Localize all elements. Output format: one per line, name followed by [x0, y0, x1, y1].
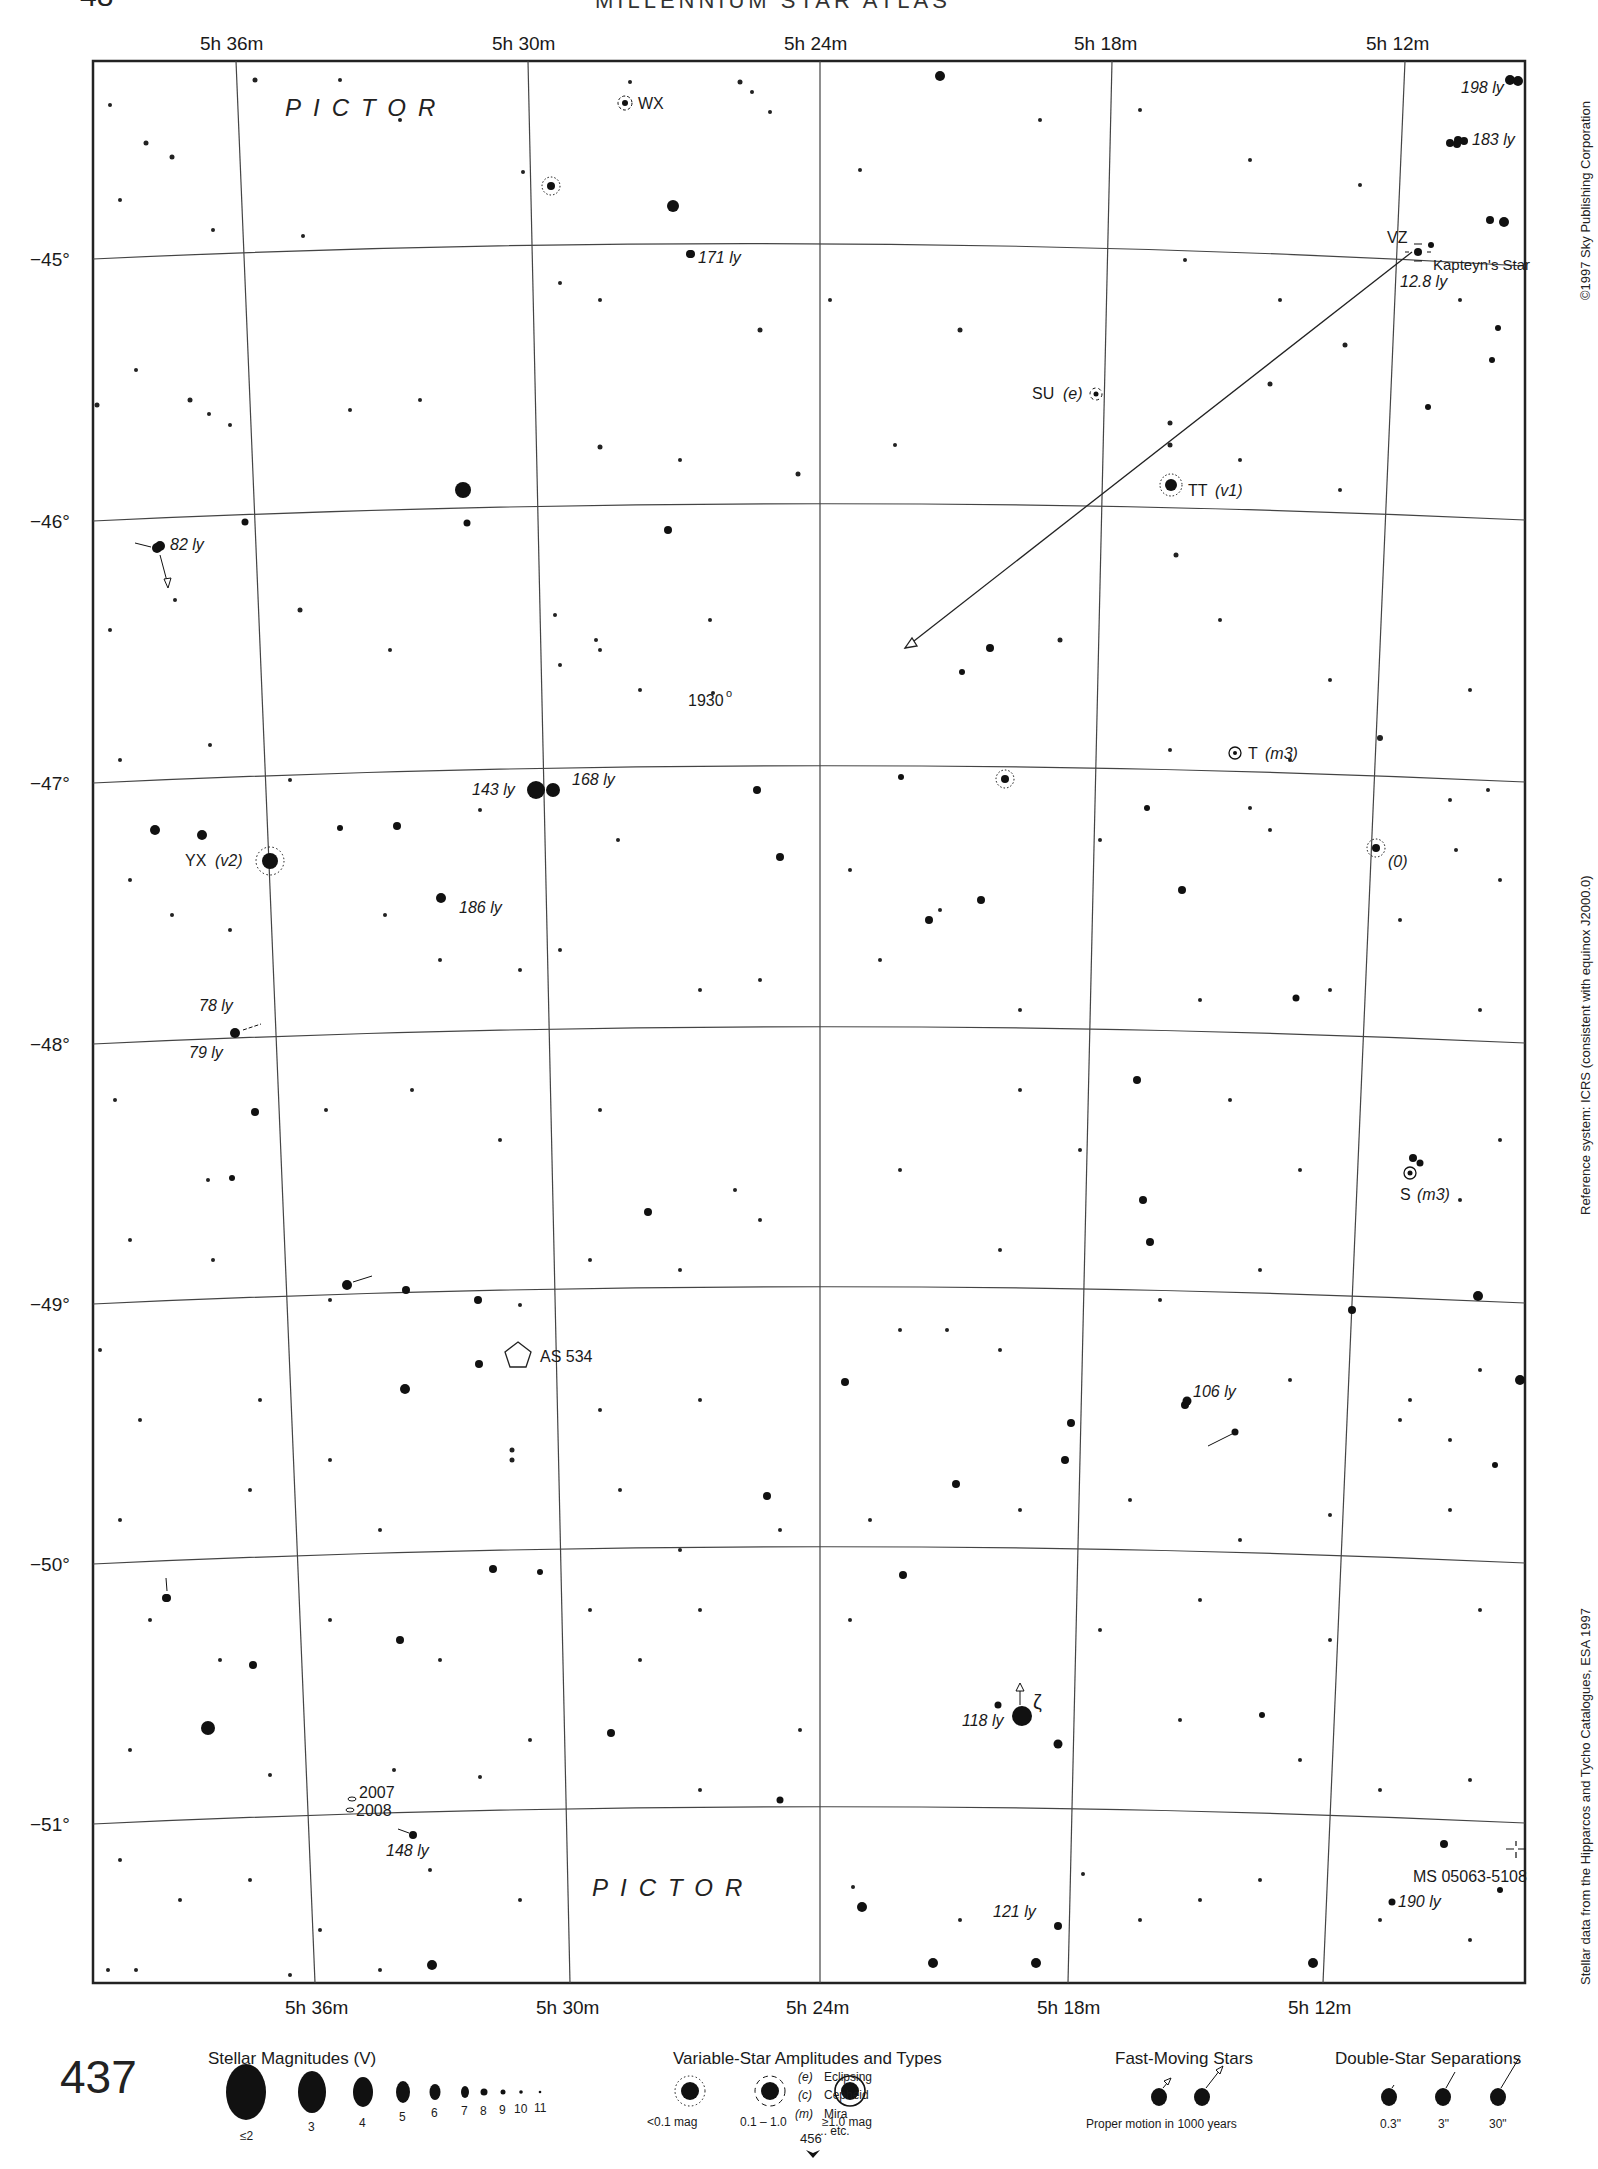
svg-text:79 ly: 79 ly — [189, 1044, 224, 1061]
dec-label: −50° — [30, 1554, 70, 1575]
svg-text:Mira: Mira — [824, 2107, 848, 2121]
svg-text:VZ: VZ — [1387, 229, 1408, 246]
legend-variables: Variable-Star Amplitudes and Types <0.1 … — [647, 2049, 942, 2158]
svg-text:106 ly: 106 ly — [1193, 1383, 1237, 1400]
mag-label: 7 — [461, 2104, 468, 2118]
svg-text:SU: SU — [1032, 385, 1054, 402]
object-wx: WX — [618, 95, 664, 112]
chart-number: 437 — [60, 2051, 137, 2103]
variable-su: SU (e) — [1032, 385, 1102, 402]
legend-doubles: Double-Star Separations 0.3" 3" 30" — [1335, 2049, 1521, 2131]
svg-text:S: S — [1400, 1186, 1411, 1203]
svg-text:118 ly: 118 ly — [962, 1712, 1005, 1729]
nebula-as534: AS 534 — [505, 1342, 593, 1367]
ra-label: 5h 36m — [200, 33, 263, 54]
mira-t: T (m3) — [1229, 745, 1298, 762]
ra-label: 5h 30m — [536, 1997, 599, 2018]
star-106ly: 106 ly — [1183, 1383, 1237, 1406]
star-82ly: 82 ly — [135, 536, 205, 588]
dec-label: −47° — [30, 773, 70, 794]
mag-label: 8 — [480, 2104, 487, 2118]
ra-label: 5h 18m — [1037, 1997, 1100, 2018]
svg-text:30": 30" — [1489, 2117, 1507, 2131]
svg-text:MS 05063-5108: MS 05063-5108 — [1413, 1868, 1527, 1885]
mag-label: 9 — [499, 2103, 506, 2117]
mag-label: 10 — [514, 2102, 528, 2116]
dec-grid — [93, 244, 1525, 1824]
ra-grid — [236, 61, 1405, 1983]
legend-fast-moving: Fast-Moving Stars Proper motion in 1000 … — [1086, 2049, 1253, 2131]
svg-text:Kapteyn's Star: Kapteyn's Star — [1433, 256, 1530, 273]
reference-note: Reference system: ICRS (consistent with … — [1578, 875, 1593, 1215]
svg-text:(m3): (m3) — [1265, 745, 1298, 762]
svg-text:WX: WX — [638, 95, 664, 112]
epoch-1930: 1930 o — [688, 687, 732, 709]
svg-text:12.8 ly: 12.8 ly — [1400, 273, 1448, 290]
svg-text:(e): (e) — [1063, 385, 1083, 402]
dec-label: −46° — [30, 511, 70, 532]
svg-text:<0.1 mag: <0.1 mag — [647, 2115, 697, 2129]
mag-label: 3 — [308, 2120, 315, 2134]
object-ms05063: MS 05063-5108 — [1413, 1841, 1527, 1885]
star-121ly: 121 ly — [993, 1903, 1062, 1930]
variable-zero: (0) — [1367, 839, 1408, 870]
star-78-79ly: 78 ly 79 ly — [189, 997, 261, 1061]
dec-label: −48° — [30, 1034, 70, 1055]
svg-text:... etc.: ... etc. — [817, 2124, 850, 2138]
svg-text:ζ: ζ — [1033, 1691, 1042, 1713]
ra-label: 5h 12m — [1288, 1997, 1351, 2018]
svg-text:(m): (m) — [795, 2107, 813, 2121]
ra-axis-top: 5h 36m 5h 30m 5h 24m 5h 18m 5h 12m — [200, 33, 1429, 54]
mira-s: S (m3) — [1400, 1160, 1450, 1204]
mag-label: 11 — [534, 2101, 547, 2115]
svg-text:(0): (0) — [1388, 853, 1408, 870]
proper-motion-vector — [905, 252, 1412, 648]
svg-text:(v2): (v2) — [215, 852, 243, 869]
svg-text:121 ly: 121 ly — [993, 1903, 1037, 1920]
svg-text:Proper motion in 1000 years: Proper motion in 1000 years — [1086, 2117, 1237, 2131]
star-183ly: 183 ly — [1453, 131, 1516, 148]
dec-label: −45° — [30, 249, 70, 270]
dec-label: −49° — [30, 1294, 70, 1315]
svg-text:148 ly: 148 ly — [386, 1842, 430, 1859]
svg-text:171 ly: 171 ly — [698, 249, 742, 266]
ra-label: 5h 18m — [1074, 33, 1137, 54]
mag-label: ≤2 — [240, 2129, 254, 2143]
svg-text:Double-Star Separations: Double-Star Separations — [1335, 2049, 1521, 2068]
svg-text:0.1 – 1.0: 0.1 – 1.0 — [740, 2115, 787, 2129]
ra-label: 5h 24m — [786, 1997, 849, 2018]
svg-text:168 ly: 168 ly — [572, 771, 616, 788]
svg-text:143 ly: 143 ly — [472, 781, 516, 798]
svg-text:0.3": 0.3" — [1380, 2117, 1401, 2131]
star-chart: 48 MILLENNIUM STAR ATLAS 5h 36m 5h 30m 5… — [0, 0, 1598, 2169]
svg-text:186 ly: 186 ly — [459, 899, 503, 916]
svg-text:(c): (c) — [798, 2088, 812, 2102]
ra-label: 5h 12m — [1366, 33, 1429, 54]
star-field — [150, 71, 1525, 1970]
svg-text:190 ly: 190 ly — [1398, 1893, 1442, 1910]
star-190ly: 190 ly — [1389, 1893, 1442, 1910]
arrow-down-icon — [806, 2150, 820, 2158]
dec-axis: −45° −46° −47° −48° −49° −50° −51° — [30, 249, 70, 1835]
copyright-note: ©1997 Sky Publishing Corporation — [1578, 101, 1593, 300]
svg-text:2008: 2008 — [356, 1802, 392, 1819]
svg-text:2007: 2007 — [359, 1784, 395, 1801]
svg-text:Eclipsing: Eclipsing — [824, 2070, 872, 2084]
svg-text:(e): (e) — [798, 2070, 813, 2084]
svg-text:(m3): (m3) — [1417, 1186, 1450, 1203]
ra-label: 5h 36m — [285, 1997, 348, 2018]
page-number-top: 48 — [80, 0, 113, 12]
atlas-title: MILLENNIUM STAR ATLAS — [595, 0, 951, 13]
svg-text:AS 534: AS 534 — [540, 1348, 593, 1365]
data-source-note: Stellar data from the Hipparcos and Tych… — [1578, 1608, 1593, 1985]
ra-label: 5h 24m — [784, 33, 847, 54]
svg-text:Variable-Star Amplitudes and T: Variable-Star Amplitudes and Types — [673, 2049, 942, 2068]
svg-text:183 ly: 183 ly — [1472, 131, 1516, 148]
svg-text:T: T — [1248, 745, 1258, 762]
svg-text:198 ly: 198 ly — [1461, 79, 1505, 96]
svg-text:Stellar Magnitudes (V): Stellar Magnitudes (V) — [208, 2049, 376, 2068]
svg-text:TT: TT — [1188, 482, 1208, 499]
svg-text:3": 3" — [1438, 2117, 1449, 2131]
svg-text:78 ly: 78 ly — [199, 997, 234, 1014]
ra-label: 5h 30m — [492, 33, 555, 54]
